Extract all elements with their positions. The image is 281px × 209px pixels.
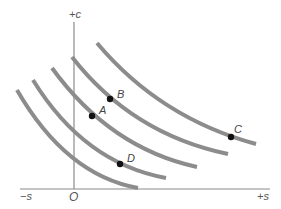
indifference-curve-diagram: +c O −s +s A B C D (0, 0, 281, 209)
point-b-label: B (117, 88, 124, 100)
indifference-curve-4 (72, 57, 228, 154)
positive-s-label: +s (257, 190, 269, 202)
point-a-label: A (98, 104, 106, 116)
negative-s-label: −s (20, 190, 32, 202)
point-b-marker (107, 96, 113, 102)
vertical-axis-label: +c (69, 8, 81, 20)
point-d-marker (117, 161, 123, 167)
indifference-curve-2 (33, 80, 166, 178)
origin-label: O (69, 190, 78, 204)
point-d-label: D (127, 152, 135, 164)
point-a-marker (89, 113, 95, 119)
point-c-label: C (234, 123, 242, 135)
